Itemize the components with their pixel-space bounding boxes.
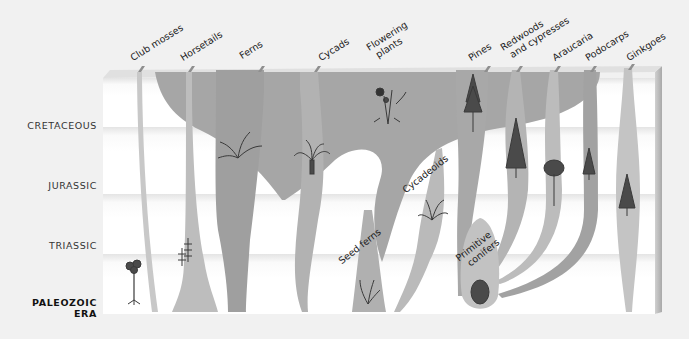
era-label-triassic: TRIASSIC (49, 240, 97, 251)
era-label-paleozoic: PALEOZOIC ERA (32, 297, 97, 319)
primitive-conifer-icon (471, 280, 489, 304)
panel-right-edge (655, 66, 662, 314)
plant-evolution-diagram: CRETACEOUS JURASSIC TRIASSIC PALEOZOIC E… (0, 0, 689, 339)
era-label-jurassic: JURASSIC (48, 180, 97, 191)
era-label-paleozoic-line2: ERA (32, 308, 97, 319)
era-label-cretaceous: CRETACEOUS (27, 120, 97, 131)
era-label-paleozoic-line1: PALEOZOIC (32, 297, 97, 308)
